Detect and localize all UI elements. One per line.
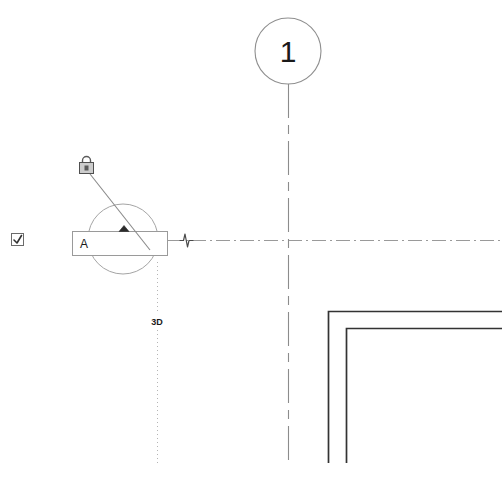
drawing-surface[interactable]: 1 3D A xyxy=(0,0,502,498)
wall-inner[interactable] xyxy=(347,329,502,464)
wall-outer[interactable] xyxy=(329,312,502,464)
grid-bubble[interactable]: 1 xyxy=(255,18,321,84)
wall-inner-stroke[interactable] xyxy=(347,329,502,464)
visibility-checkbox[interactable] xyxy=(12,234,24,246)
section-marker-label: A xyxy=(80,237,88,251)
padlock-icon[interactable] xyxy=(80,157,94,174)
view-depth-label: 3D xyxy=(151,317,163,327)
view-extent-dotted-line[interactable]: 3D xyxy=(151,262,163,466)
grid-bubble-label: 1 xyxy=(280,35,297,68)
line-break-symbol-icon[interactable] xyxy=(180,234,193,247)
wall-outer-stroke[interactable] xyxy=(329,312,502,464)
section-direction-arrow-icon[interactable] xyxy=(119,226,129,232)
drawing-canvas[interactable]: 1 3D A xyxy=(0,0,502,498)
section-marker-a[interactable]: A xyxy=(73,204,168,274)
line-break-symbol[interactable] xyxy=(180,234,193,247)
padlock-keyhole-icon xyxy=(85,166,89,171)
